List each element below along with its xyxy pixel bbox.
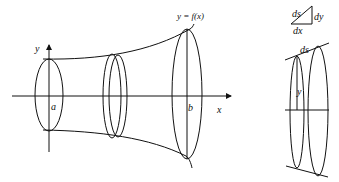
surface-of-revolution-figure: y x a b y = f(x) ds dy dx ds y — [0, 0, 339, 182]
triangle-dx-label: dx — [293, 25, 303, 36]
x-axis-label: x — [216, 104, 222, 115]
upper-profile-curve — [43, 24, 194, 59]
diagram-canvas: y x a b y = f(x) ds dy dx ds y — [0, 0, 339, 182]
label-b: b — [188, 102, 193, 113]
left-surface-diagram: y x a b y = f(x) — [12, 11, 231, 168]
y-axis-label: y — [34, 43, 40, 54]
triangle-ds-label: ds — [292, 8, 301, 19]
band-ring-large — [308, 46, 328, 176]
band-detail-diagram: ds y — [285, 43, 329, 177]
radius-y-label: y — [296, 86, 302, 97]
label-a: a — [51, 101, 56, 112]
arc-length-triangle: ds dy dx — [291, 6, 324, 36]
lower-profile-curve — [43, 130, 192, 168]
triangle-dy-label: dy — [314, 11, 324, 22]
curve-label: y = f(x) — [176, 11, 204, 21]
band-ds-label: ds — [300, 44, 309, 55]
